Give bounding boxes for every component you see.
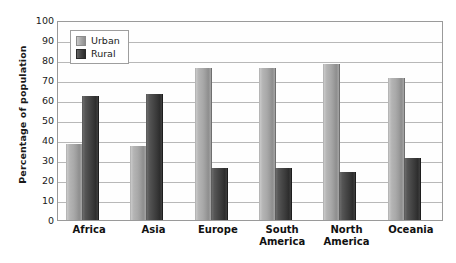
bar-rural[interactable]	[82, 96, 99, 220]
bar-rural[interactable]	[404, 158, 421, 220]
bar-urban[interactable]	[259, 68, 276, 220]
x-tick-label-line2: America	[250, 236, 314, 248]
x-tick-label-line1: Asia	[142, 224, 166, 235]
bar-urban[interactable]	[130, 146, 147, 220]
x-tick-label-line1: South	[266, 224, 299, 235]
bar-urban[interactable]	[195, 68, 212, 220]
x-tick-label: SouthAmerica	[250, 224, 314, 248]
bar-rural[interactable]	[211, 168, 228, 220]
bar-rural[interactable]	[146, 94, 163, 220]
bar-urban[interactable]	[388, 78, 405, 220]
chart-legend: Urban Rural	[70, 30, 129, 64]
y-tick-label: 70	[28, 76, 54, 86]
y-tick-label: 40	[28, 136, 54, 146]
bar-group	[251, 22, 315, 220]
bar-group	[380, 22, 443, 220]
plot-area: Urban Rural	[57, 21, 443, 221]
y-axis-tick-labels: 1009080706050403020100	[28, 16, 54, 225]
y-tick-label: 20	[28, 176, 54, 186]
x-tick-label: Africa	[57, 224, 121, 236]
y-tick-label: 100	[28, 16, 54, 26]
x-tick-label: Asia	[121, 224, 185, 236]
bar-urban[interactable]	[323, 64, 340, 220]
x-tick-label-line1: Europe	[198, 224, 238, 235]
x-axis-tick-labels: AfricaAsiaEuropeSouthAmericaNorthAmerica…	[57, 224, 443, 260]
y-tick-label: 90	[28, 36, 54, 46]
y-tick-label: 10	[28, 196, 54, 206]
y-tick-label: 0	[28, 216, 54, 226]
legend-swatch-urban-icon	[76, 36, 86, 46]
y-tick-label: 30	[28, 156, 54, 166]
x-tick-label-line2: America	[314, 236, 378, 248]
y-tick-label: 50	[28, 116, 54, 126]
x-tick-label: Oceania	[379, 224, 443, 236]
bar-rural[interactable]	[275, 168, 292, 220]
x-tick-label-line1: Oceania	[388, 224, 433, 235]
bar-group	[315, 22, 379, 220]
legend-item-rural: Rural	[76, 47, 120, 60]
bar-group	[187, 22, 251, 220]
bar-group	[122, 22, 186, 220]
bar-rural[interactable]	[339, 172, 356, 220]
bar-chart: Percentage of population 100908070605040…	[0, 0, 456, 263]
legend-item-urban: Urban	[76, 34, 120, 47]
legend-swatch-rural-icon	[76, 49, 86, 59]
x-tick-label: NorthAmerica	[314, 224, 378, 248]
x-tick-label: Europe	[186, 224, 250, 236]
bar-urban[interactable]	[66, 144, 83, 220]
y-tick-label: 80	[28, 56, 54, 66]
x-tick-label-line1: North	[330, 224, 362, 235]
y-tick-label: 60	[28, 96, 54, 106]
legend-label-urban: Urban	[91, 35, 120, 46]
legend-label-rural: Rural	[91, 48, 116, 59]
x-tick-label-line1: Africa	[73, 224, 106, 235]
y-axis-title-text: Percentage of population	[17, 45, 28, 183]
